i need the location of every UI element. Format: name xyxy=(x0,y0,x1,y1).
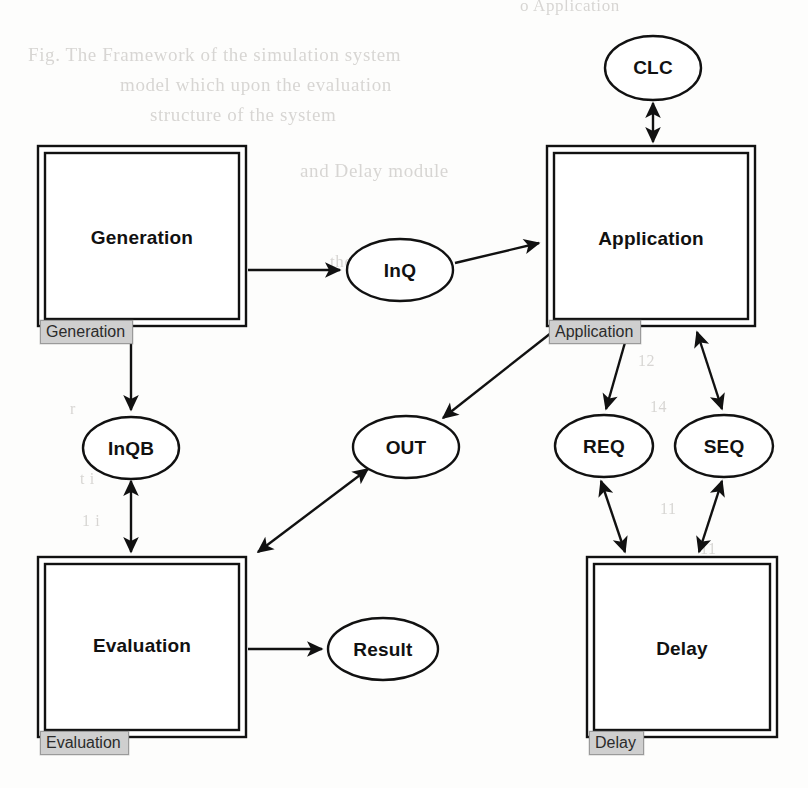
edge-out-to-evaluation xyxy=(258,469,368,552)
box-delay-title: Delay xyxy=(656,638,708,660)
edge-req-to-delay xyxy=(601,481,625,552)
box-application-title: Application xyxy=(598,228,704,250)
box-generation-tab-label: Generation xyxy=(40,320,133,344)
oval-req-title: REQ xyxy=(583,436,625,458)
box-generation-title: Generation xyxy=(91,227,193,249)
scanned-page: o ApplicationFig. The Framework of the s… xyxy=(0,0,808,788)
box-evaluation-tab-label: Evaluation xyxy=(40,731,129,755)
box-delay-tab-label: Delay xyxy=(589,731,644,755)
oval-clc-title: CLC xyxy=(633,57,673,79)
oval-inqb-title: InQB xyxy=(108,438,154,460)
edge-seq-to-application xyxy=(697,332,722,409)
box-evaluation-title: Evaluation xyxy=(93,635,191,657)
oval-inq-title: InQ xyxy=(384,260,416,282)
oval-result-title: Result xyxy=(353,639,412,661)
box-application-tab-label: Application xyxy=(549,320,641,344)
oval-out-title: OUT xyxy=(386,437,427,459)
edge-inq-to-application xyxy=(455,243,539,263)
system-framework-diagram xyxy=(0,0,808,788)
edge-seq-to-delay xyxy=(699,481,722,552)
oval-seq-title: SEQ xyxy=(704,436,745,458)
edge-application-to-out xyxy=(443,333,551,418)
